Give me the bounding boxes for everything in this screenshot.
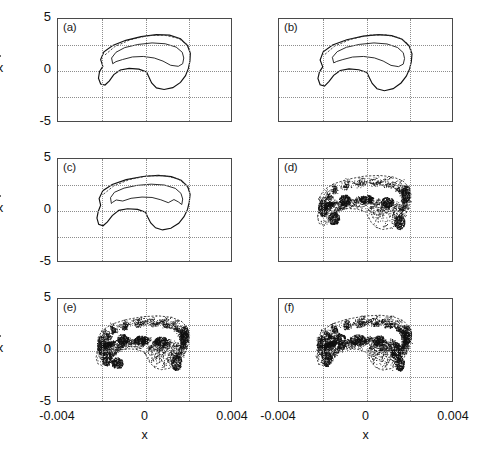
attractor-plot: [279, 19, 453, 122]
panel-c: (c): [57, 158, 232, 262]
y-tick-label: -5: [17, 393, 51, 408]
y-axis-major-tick: [57, 351, 58, 352]
y-axis-major-tick: [278, 299, 279, 300]
panel-label: (b): [284, 21, 297, 33]
y-axis-major-tick: [278, 71, 279, 72]
y-axis-minor-tick: [57, 45, 58, 46]
y-axis-title: x: [0, 340, 11, 355]
y-axis-major-tick: [278, 159, 279, 160]
attractor-plot: [58, 159, 232, 262]
y-axis-minor-tick: [278, 325, 279, 326]
attractor-plot: [279, 299, 453, 402]
y-axis-minor-tick: [57, 377, 58, 378]
y-axis-minor-tick: [278, 237, 279, 238]
y-axis-minor-tick: [278, 377, 279, 378]
y-axis-minor-tick: [57, 325, 58, 326]
x-tick-label: -0.004: [27, 409, 87, 423]
y-axis-major-tick: [57, 71, 58, 72]
x-tick-label: 0: [336, 409, 396, 423]
y-axis-minor-tick: [278, 45, 279, 46]
y-tick-label: 5: [17, 289, 51, 304]
y-axis-minor-tick: [278, 185, 279, 186]
panel-b: (b): [278, 18, 453, 122]
attractor-plot: [58, 19, 232, 122]
attractor-plot: [58, 299, 232, 402]
panel-e: (e): [57, 298, 232, 402]
y-axis-major-tick: [278, 19, 279, 20]
x-axis-title: x: [336, 428, 396, 442]
panel-label: (c): [63, 161, 76, 173]
y-tick-label: 5: [17, 9, 51, 24]
y-tick-label: -5: [17, 113, 51, 128]
y-axis-minor-tick: [57, 185, 58, 186]
y-axis-title: x: [0, 60, 11, 75]
attractor-plot: [279, 159, 453, 262]
figure-root: (a)-505x(b)(c)-505x(d)(e)-505x-0.00400.0…: [0, 0, 487, 455]
y-axis-major-tick: [57, 299, 58, 300]
x-tick-label: -0.004: [248, 409, 308, 423]
panel-label: (e): [63, 301, 76, 313]
y-axis-major-tick: [57, 211, 58, 212]
x-tick-label: 0: [115, 409, 175, 423]
panel-f: (f): [278, 298, 453, 402]
y-axis-minor-tick: [57, 97, 58, 98]
y-tick-label: 0: [17, 341, 51, 356]
y-tick-label: 5: [17, 149, 51, 164]
y-axis-title: x: [0, 200, 11, 215]
y-axis-major-tick: [278, 211, 279, 212]
y-tick-label: 0: [17, 201, 51, 216]
panel-label: (f): [284, 301, 294, 313]
y-axis-major-tick: [57, 159, 58, 160]
x-axis-title: x: [115, 428, 175, 442]
y-axis-major-tick: [278, 351, 279, 352]
y-tick-label: 0: [17, 61, 51, 76]
x-tick-label: 0.004: [423, 409, 483, 423]
panel-a: (a): [57, 18, 232, 122]
y-axis-minor-tick: [57, 237, 58, 238]
panel-label: (d): [284, 161, 297, 173]
y-axis-major-tick: [57, 19, 58, 20]
y-tick-label: -5: [17, 253, 51, 268]
panel-label: (a): [63, 21, 76, 33]
panel-d: (d): [278, 158, 453, 262]
y-axis-minor-tick: [278, 97, 279, 98]
